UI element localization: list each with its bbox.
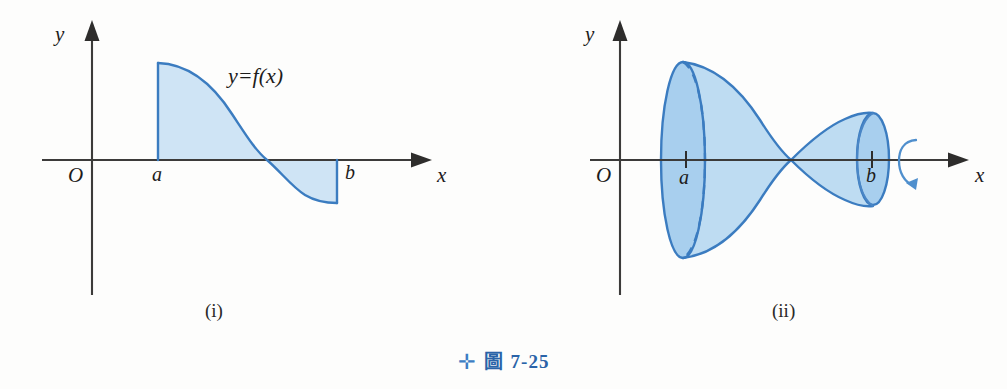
rotation-arrow-head-icon: [906, 178, 918, 190]
panel-i-tag: (i): [205, 300, 223, 322]
negative-area-fill: [267, 160, 337, 203]
panel-ii-origin-label: O: [596, 163, 611, 188]
panel-i-y-axis-label: y: [55, 22, 64, 47]
panel-i-x-axis-arrow-icon: [411, 153, 432, 168]
rotation-arrow-icon: [899, 140, 916, 186]
panel-ii-bound-a-label: a: [679, 166, 689, 189]
function-equation-label: y=f(x): [228, 63, 283, 89]
panel-ii-x-axis-label: x: [975, 163, 984, 188]
panel-ii-bound-b-label: b: [866, 164, 876, 187]
caption-number: 7-25: [511, 351, 550, 372]
panel-i-bound-b-label: b: [345, 161, 355, 184]
panel-ii-y-axis-arrow-icon: [613, 20, 628, 41]
panel-ii-y-axis-label: y: [585, 22, 594, 47]
caption-word: 圖: [484, 351, 504, 372]
figure-caption: ✛圖7-25: [0, 346, 1007, 375]
figure-canvas: [0, 0, 1007, 389]
panel-i-bound-a-label: a: [152, 163, 162, 186]
caption-star-icon: ✛: [458, 350, 477, 374]
panel-ii-graphics: [590, 20, 969, 295]
panel-i-x-axis-label: x: [437, 163, 446, 188]
figure-root: y x O a b y=f(x) (i) y x O a b (ii) ✛圖7-…: [0, 0, 1007, 389]
panel-ii-tag: (ii): [772, 300, 795, 322]
panel-i-y-axis-arrow-icon: [85, 20, 100, 41]
panel-i-origin-label: O: [68, 163, 83, 188]
panel-i-graphics: [42, 20, 432, 295]
panel-ii-x-axis-arrow-icon: [948, 153, 969, 168]
